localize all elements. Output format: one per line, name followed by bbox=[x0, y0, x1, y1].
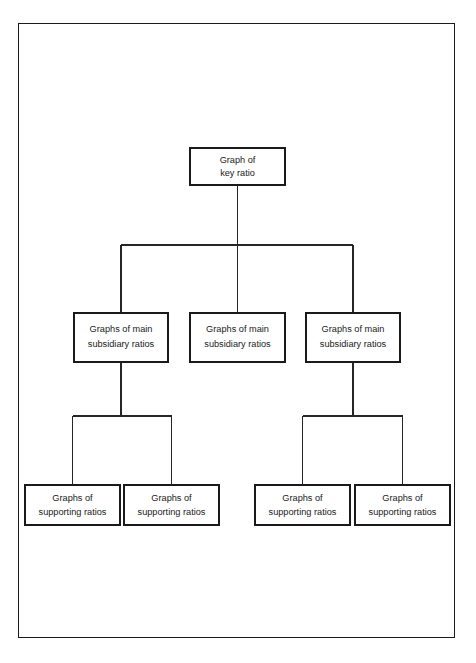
node-leaf-3[interactable]: Graphs of supporting ratios bbox=[255, 485, 350, 525]
node-label-line-1: Graphs of bbox=[382, 493, 423, 503]
node-label-line-2: supporting ratios bbox=[269, 507, 337, 517]
node-box[interactable] bbox=[25, 485, 120, 525]
node-label-line-1: Graphs of bbox=[52, 493, 93, 503]
node-label-line-1: Graph of bbox=[220, 155, 256, 165]
node-label-line-2: subsidiary ratios bbox=[88, 339, 155, 349]
node-box[interactable] bbox=[306, 313, 400, 362]
node-label-line-2: supporting ratios bbox=[369, 507, 437, 517]
node-leaf-2[interactable]: Graphs of supporting ratios bbox=[124, 485, 219, 525]
node-label-line-1: Graphs of main bbox=[206, 324, 269, 334]
node-label-line-1: Graphs of bbox=[282, 493, 323, 503]
node-box[interactable] bbox=[190, 313, 285, 362]
node-box[interactable] bbox=[124, 485, 219, 525]
node-label-line-1: Graphs of main bbox=[90, 324, 153, 334]
node-leaf-4[interactable]: Graphs of supporting ratios bbox=[355, 485, 450, 525]
node-box[interactable] bbox=[190, 148, 285, 185]
tree-svg: Graph of key ratio Graphs of main subsid… bbox=[0, 0, 476, 663]
node-label-line-2: supporting ratios bbox=[39, 507, 107, 517]
page-canvas: Graph of key ratio Graphs of main subsid… bbox=[0, 0, 476, 663]
node-label-line-1: Graphs of bbox=[151, 493, 192, 503]
node-mid-right[interactable]: Graphs of main subsidiary ratios bbox=[306, 313, 400, 362]
node-label-line-2: supporting ratios bbox=[138, 507, 206, 517]
node-box[interactable] bbox=[74, 313, 168, 362]
hierarchy-diagram: Graph of key ratio Graphs of main subsid… bbox=[0, 0, 476, 663]
node-box[interactable] bbox=[255, 485, 350, 525]
node-leaf-1[interactable]: Graphs of supporting ratios bbox=[25, 485, 120, 525]
node-label-line-1: Graphs of main bbox=[322, 324, 385, 334]
node-label-line-2: subsidiary ratios bbox=[204, 339, 271, 349]
node-root[interactable]: Graph of key ratio bbox=[190, 148, 285, 185]
node-label-line-2: subsidiary ratios bbox=[320, 339, 387, 349]
node-box[interactable] bbox=[355, 485, 450, 525]
node-mid-left[interactable]: Graphs of main subsidiary ratios bbox=[74, 313, 168, 362]
node-label-line-2: key ratio bbox=[220, 168, 255, 178]
node-mid-center[interactable]: Graphs of main subsidiary ratios bbox=[190, 313, 285, 362]
